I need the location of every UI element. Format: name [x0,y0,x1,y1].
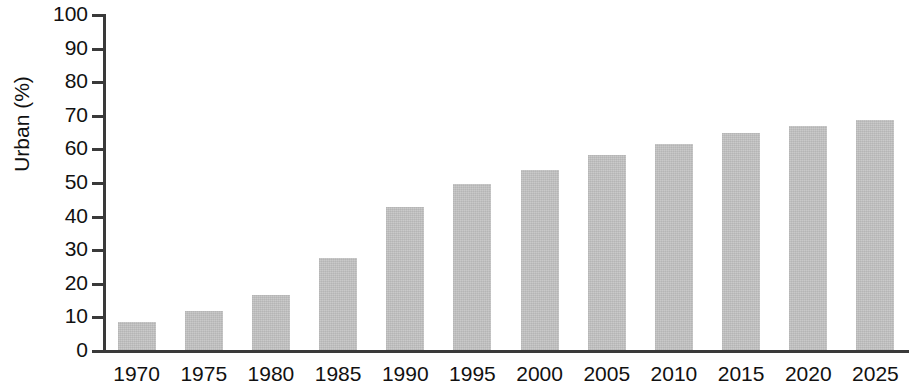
y-axis-tick-label: 0 [76,338,88,362]
y-axis-tick-mark [92,283,103,286]
y-axis-tick-label: 80 [65,69,88,93]
x-axis-tick-label: 2000 [516,362,563,384]
y-axis-tick-mark [92,14,103,17]
x-axis-tick-label: 1995 [449,362,496,384]
x-axis-tick-label: 2010 [651,362,698,384]
y-axis-tick-mark [92,249,103,252]
y-axis-tick-label: 40 [65,204,88,228]
y-axis-tick-mark [92,216,103,219]
x-axis-tick-label: 2015 [718,362,765,384]
y-axis-tick-label: 20 [65,271,88,295]
bar [118,322,156,350]
plot-area: 0102030405060708090100 19701975198019851… [103,14,909,350]
bar [185,311,223,350]
bar [722,133,760,350]
bar [453,184,491,350]
y-axis-tick-mark [92,316,103,319]
y-axis-tick-mark [92,350,103,353]
bar [386,207,424,350]
y-axis-tick-label: 100 [53,2,88,26]
y-axis-tick-mark [92,148,103,151]
bar [655,144,693,350]
x-axis-tick-label: 1985 [315,362,362,384]
x-axis-tick-label: 1970 [113,362,160,384]
y-axis-tick-mark [92,81,103,84]
y-axis-tick-mark [92,182,103,185]
y-axis-tick-label: 30 [65,237,88,261]
bar [252,295,290,350]
bar [789,126,827,350]
bar-chart: Urban (%) 0102030405060708090100 1970197… [0,0,909,384]
bar [588,155,626,350]
x-axis-tick-label: 2005 [583,362,630,384]
y-axis-tick-label: 50 [65,170,88,194]
y-axis-tick-label: 70 [65,103,88,127]
y-axis-tick-mark [92,115,103,118]
x-axis-line [103,350,909,353]
x-axis-tick-label: 2025 [852,362,899,384]
y-axis-title: Urban (%) [10,44,34,204]
x-axis-tick-label: 1990 [382,362,429,384]
y-axis-line [103,14,106,351]
bar [856,120,894,350]
x-axis-tick-label: 1980 [248,362,295,384]
y-axis-tick-label: 90 [65,36,88,60]
y-axis-tick-mark [92,48,103,51]
y-axis-tick-label: 60 [65,136,88,160]
bar [521,170,559,350]
y-axis-tick-label: 10 [65,304,88,328]
bar [319,258,357,350]
x-axis-tick-label: 2020 [785,362,832,384]
x-axis-tick-label: 1975 [180,362,227,384]
